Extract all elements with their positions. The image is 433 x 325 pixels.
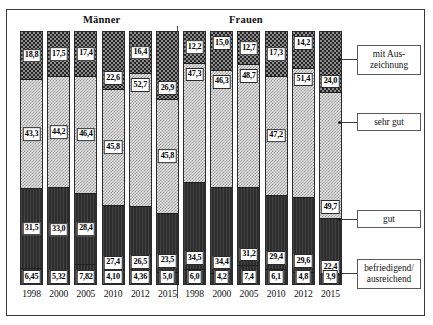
value-label-mit-auszeichnung: 22,6 bbox=[104, 71, 123, 85]
value-label-befriedigend: 6,45 bbox=[22, 270, 41, 284]
legend-anchor-dot-sehr-gut bbox=[338, 121, 341, 124]
bar-segment-befriedigend: 4,10 bbox=[103, 274, 124, 284]
group-title-maenner: Männer bbox=[83, 14, 120, 25]
bar-segment-mit-auszeichnung: 17,3 bbox=[266, 32, 287, 76]
stacked-bar[interactable]: 17,347,229,46,1 bbox=[265, 31, 288, 285]
legend-label-gut: gut bbox=[383, 214, 395, 225]
bar-segment-gut: 31,5 bbox=[21, 188, 42, 267]
value-label-befriedigend: 5,32 bbox=[49, 270, 68, 284]
bar-segment-befriedigend: 4,8 bbox=[293, 272, 314, 284]
stacked-bar[interactable]: 15,046,334,44,2 bbox=[210, 31, 233, 285]
bar-segment-gut: 29,4 bbox=[266, 195, 287, 269]
stacked-bar[interactable]: 22,645,827,44,10 bbox=[102, 31, 125, 285]
stacked-bar[interactable]: 12,748,731,27,4 bbox=[237, 31, 260, 285]
value-label-gut: 31,5 bbox=[22, 222, 41, 236]
bar-segment-befriedigend: 6,0 bbox=[184, 269, 205, 284]
value-label-sehr-gut: 43,3 bbox=[22, 128, 41, 142]
bar-column: 14,251,429,64,8 bbox=[290, 31, 317, 285]
value-label-mit-auszeichnung: 14,2 bbox=[294, 36, 313, 50]
bar-segment-gut: 26,5 bbox=[130, 206, 151, 273]
bar-column: 12,247,334,56,0 bbox=[181, 31, 208, 285]
x-tick-label: 2010 bbox=[263, 288, 290, 306]
value-label-gut: 29,6 bbox=[294, 254, 313, 268]
bar-column: 17,446,428,47,82 bbox=[72, 31, 99, 285]
stacked-bar[interactable]: 24,049,722,43,9 bbox=[319, 31, 342, 285]
x-tick-label: 1998 bbox=[181, 288, 208, 306]
legend-item-mit-auszeichnung: mit Aus- zeichnung bbox=[357, 45, 421, 75]
stacked-bar[interactable]: 26,945,823,55,0 bbox=[156, 31, 179, 285]
bar-segment-gut: 22,4 bbox=[320, 218, 341, 274]
value-label-befriedigend: 3,9 bbox=[323, 270, 338, 284]
legend-leader-gut bbox=[340, 219, 357, 220]
value-label-mit-auszeichnung: 12,7 bbox=[240, 41, 259, 55]
legend-label-befriedigend-line2: ausreichend bbox=[367, 274, 411, 284]
bar-segment-gut: 28,4 bbox=[75, 193, 96, 265]
bar-segment-mit-auszeichnung: 18,8 bbox=[21, 32, 42, 79]
bar-segment-befriedigend: 4,2 bbox=[211, 273, 232, 284]
legend-leader-befriedigend bbox=[340, 273, 357, 274]
bar-segment-sehr-gut: 51,4 bbox=[293, 68, 314, 198]
bar-segment-befriedigend: 5,0 bbox=[157, 272, 178, 284]
bar-segment-mit-auszeichnung: 26,9 bbox=[157, 32, 178, 99]
x-tick-label: 2012 bbox=[290, 288, 317, 306]
stacked-bar[interactable]: 17,446,428,47,82 bbox=[74, 31, 97, 285]
value-label-mit-auszeichnung: 17,5 bbox=[49, 47, 68, 61]
bar-column: 12,748,731,27,4 bbox=[235, 31, 262, 285]
bar-segment-mit-auszeichnung: 17,5 bbox=[48, 32, 69, 76]
bar-segment-gut: 33,0 bbox=[48, 187, 69, 270]
value-label-sehr-gut: 47,3 bbox=[185, 68, 204, 82]
bar-segment-gut: 29,6 bbox=[293, 197, 314, 272]
value-label-befriedigend: 4,8 bbox=[296, 270, 311, 284]
legend-label-befriedigend-line1: befriedigend/ bbox=[364, 263, 414, 273]
bar-segment-mit-auszeichnung: 14,2 bbox=[293, 32, 314, 68]
bar-segment-mit-auszeichnung: 15,0 bbox=[211, 32, 232, 70]
chart-root: Männer Frauen 18,843,331,56,4517,544,233… bbox=[0, 0, 433, 325]
value-label-gut: 23,5 bbox=[158, 254, 177, 268]
legend-item-gut: gut bbox=[357, 210, 421, 228]
value-label-sehr-gut: 48,7 bbox=[240, 69, 259, 83]
value-label-befriedigend: 7,82 bbox=[77, 270, 96, 284]
bar-segment-gut: 31,2 bbox=[238, 187, 259, 266]
bar-segment-gut: 27,4 bbox=[103, 205, 124, 274]
value-label-mit-auszeichnung: 24,0 bbox=[321, 75, 340, 89]
value-label-mit-auszeichnung: 17,4 bbox=[77, 47, 96, 61]
bar-segment-befriedigend: 4,36 bbox=[130, 273, 151, 284]
value-label-gut: 29,4 bbox=[267, 251, 286, 265]
value-label-befriedigend: 4,36 bbox=[131, 270, 150, 284]
value-label-sehr-gut: 52,7 bbox=[131, 78, 150, 92]
bar-segment-gut: 34,4 bbox=[211, 187, 232, 274]
value-label-befriedigend: 7,4 bbox=[242, 270, 257, 284]
value-label-befriedigend: 6,1 bbox=[269, 270, 284, 284]
x-tick-label: 2000 bbox=[45, 288, 72, 306]
stacked-bar[interactable]: 16,452,726,54,36 bbox=[129, 31, 152, 285]
x-tick-label: 2012 bbox=[127, 288, 154, 306]
bar-segment-sehr-gut: 45,8 bbox=[103, 89, 124, 205]
stacked-bar[interactable]: 17,544,233,05,32 bbox=[47, 31, 70, 285]
x-tick-label: 2015 bbox=[154, 288, 181, 306]
value-label-gut: 34,4 bbox=[213, 256, 232, 270]
bar-segment-mit-auszeichnung: 17,4 bbox=[75, 32, 96, 76]
bar-segment-sehr-gut: 43,3 bbox=[21, 79, 42, 188]
bar-segment-gut: 23,5 bbox=[157, 213, 178, 272]
bar-column: 16,452,726,54,36 bbox=[127, 31, 154, 285]
value-label-gut: 34,5 bbox=[185, 251, 204, 265]
value-label-sehr-gut: 47,2 bbox=[267, 129, 286, 143]
stacked-bar[interactable]: 12,247,334,56,0 bbox=[183, 31, 206, 285]
value-label-mit-auszeichnung: 16,4 bbox=[131, 46, 150, 60]
bar-segment-sehr-gut: 47,3 bbox=[184, 63, 205, 182]
bar-column: 22,645,827,44,10 bbox=[100, 31, 127, 285]
bar-segment-mit-auszeichnung: 12,7 bbox=[238, 32, 259, 64]
bar-segment-befriedigend: 6,45 bbox=[21, 268, 42, 284]
bar-segment-gut: 34,5 bbox=[184, 182, 205, 269]
legend-item-befriedigend: befriedigend/ ausreichend bbox=[357, 259, 421, 289]
stacked-bar[interactable]: 14,251,429,64,8 bbox=[292, 31, 315, 285]
value-label-gut: 28,4 bbox=[77, 222, 96, 236]
bar-column: 17,544,233,05,32 bbox=[45, 31, 72, 285]
bar-segment-sehr-gut: 44,2 bbox=[48, 76, 69, 187]
stacked-bar[interactable]: 18,843,331,56,45 bbox=[20, 31, 43, 285]
value-label-sehr-gut: 46,3 bbox=[213, 75, 232, 89]
value-label-gut: 26,5 bbox=[131, 255, 150, 269]
bar-segment-befriedigend: 3,9 bbox=[320, 274, 341, 284]
value-label-befriedigend: 5,0 bbox=[160, 270, 175, 284]
legend-label-mit-auszeichnung-line2: zeichnung bbox=[370, 60, 408, 70]
